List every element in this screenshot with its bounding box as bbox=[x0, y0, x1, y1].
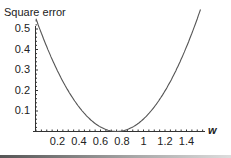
y-tick-label: 0.5 bbox=[2, 22, 30, 34]
x-tick-label: 1.4 bbox=[175, 135, 199, 147]
x-tick-label: 0.8 bbox=[110, 135, 134, 147]
bottom-divider bbox=[0, 155, 231, 158]
y-tick-label: 0.2 bbox=[2, 84, 30, 96]
x-tick-label: 1 bbox=[132, 135, 156, 147]
x-axis-label: w bbox=[208, 124, 217, 136]
chart-root: Square error 0.10.20.30.40.5 0.20.40.60.… bbox=[0, 0, 231, 158]
x-tick-label: 0.4 bbox=[67, 135, 91, 147]
error-curve bbox=[36, 10, 201, 132]
y-tick-label: 0.1 bbox=[2, 104, 30, 116]
x-tick-label: 0.6 bbox=[89, 135, 113, 147]
x-tick-label: 1.2 bbox=[153, 135, 177, 147]
y-tick-label: 0.3 bbox=[2, 63, 30, 75]
y-tick-label: 0.4 bbox=[2, 43, 30, 55]
x-tick-label: 0.2 bbox=[46, 135, 70, 147]
